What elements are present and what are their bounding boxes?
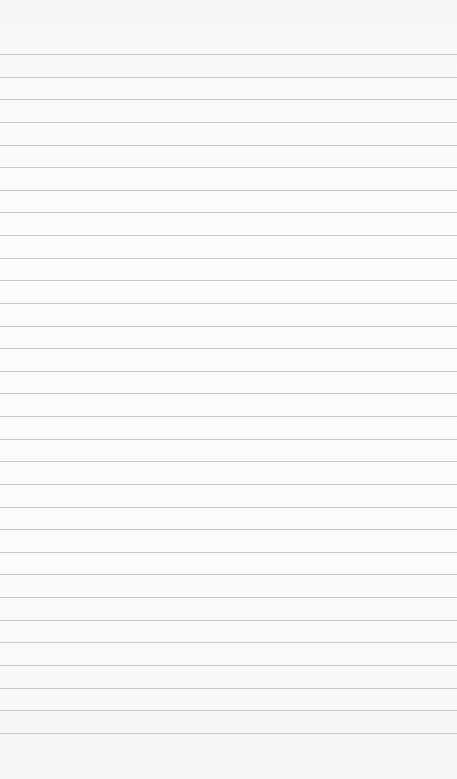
ruled-line	[0, 326, 457, 327]
ruled-line	[0, 665, 457, 666]
ruled-line	[0, 439, 457, 440]
ruled-line	[0, 258, 457, 259]
ruled-line	[0, 99, 457, 100]
ruled-line	[0, 710, 457, 711]
ruled-line	[0, 529, 457, 530]
ruled-line	[0, 54, 457, 55]
ruled-line	[0, 733, 457, 734]
ruled-line	[0, 688, 457, 689]
ruled-line	[0, 642, 457, 643]
ruled-line	[0, 212, 457, 213]
ruled-line	[0, 77, 457, 78]
ruled-line	[0, 484, 457, 485]
ruled-line	[0, 303, 457, 304]
ruled-line	[0, 597, 457, 598]
ruled-line	[0, 145, 457, 146]
ruled-line	[0, 122, 457, 123]
ruled-line	[0, 235, 457, 236]
ruled-line	[0, 416, 457, 417]
ruled-line	[0, 620, 457, 621]
ruled-line	[0, 461, 457, 462]
ruled-line	[0, 507, 457, 508]
ruled-line	[0, 393, 457, 394]
ruled-line	[0, 574, 457, 575]
ruled-line	[0, 190, 457, 191]
ruled-line	[0, 167, 457, 168]
notepad-page	[0, 0, 457, 779]
ruled-line	[0, 371, 457, 372]
ruled-line	[0, 552, 457, 553]
ruled-line	[0, 348, 457, 349]
ruled-line	[0, 280, 457, 281]
